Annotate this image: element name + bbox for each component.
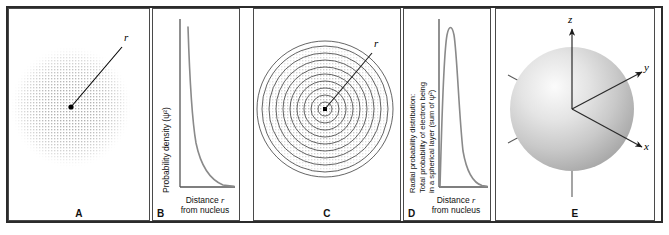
panel-c-spherical-shells: r C [253,8,401,221]
panel-d-radial-curve [440,28,487,187]
panel-d-x-label-text1: Distance [437,195,472,205]
panel-b-y-axis-label: Probability density (ψ²) [161,107,171,193]
panel-b-x-axis-label-line2: from nucleus [169,205,240,215]
sphere-axes-svg [496,9,655,221]
panel-letter-d: D [408,208,416,219]
axis-label-z: z [568,13,572,25]
panel-d-x-axis-label-line2: from nucleus [420,205,491,215]
panel-letter-b: B [157,208,165,219]
panel-d-y-axis-label-line1: Radial probability distribution: [408,82,418,193]
axis-label-y: y [644,61,649,73]
panel-d-y-axis-label: Radial probability distribution: Total p… [408,82,437,193]
panel-b-plot-area [177,19,235,191]
panel-b-x-axis-label: Distance r from nucleus [169,195,240,215]
panel-d-curve-svg [436,19,488,191]
dot-cloud-svg [9,9,150,221]
panel-b-decay-curve [188,27,234,186]
panel-d-y-axis-label-line2: Total probability of electron being [418,82,428,193]
panel-b-probability-density-plot: Probability density (ψ²) Distance r from… [152,8,240,221]
panel-a-electron-cloud: r A [8,8,150,221]
panel-b-x-label-italic-r: r [221,195,224,205]
panel-b-x-axis-label-line1: Distance r [169,195,240,205]
panel-d-x-axis-label-line1: Distance r [420,195,491,205]
panel-d-x-label-italic-r: r [472,195,475,205]
panel-d-radial-distribution-plot: Radial probability distribution: Total p… [403,8,491,221]
panel-letter-e: E [496,208,654,219]
radius-label-a: r [124,31,128,43]
panel-letter-c: C [254,208,400,219]
radius-label-c: r [374,37,378,49]
panel-d-plot-area [436,19,488,191]
panel-b-curve-svg [177,19,235,191]
figure-root: r A Probability density (ψ²) Distance r … [0,0,669,235]
axis-label-x: x [644,140,649,152]
shells-svg [254,9,401,221]
panel-letter-a: A [9,208,149,219]
panel-b-x-label-text1: Distance [186,195,221,205]
panel-e-orbital-sphere: z y x E [495,8,655,221]
panel-d-x-axis-label: Distance r from nucleus [420,195,491,215]
